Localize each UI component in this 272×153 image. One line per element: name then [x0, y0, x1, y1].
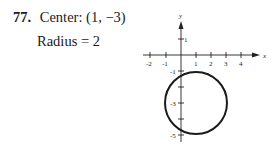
y-tick-label: -1 [170, 68, 176, 76]
y-axis-label: y [178, 12, 183, 20]
x-tick-label: -2 [146, 60, 152, 68]
y-tick-label: 1 [184, 36, 188, 44]
y-tick-label: -5 [170, 132, 176, 140]
x-axis-label: x [262, 52, 267, 60]
x-tick-label: 4 [239, 60, 243, 68]
x-tick-label: 2 [209, 60, 213, 68]
x-tick-label: 3 [224, 60, 228, 68]
x-axis-arrow-icon [252, 53, 260, 58]
circle-graph: x y -2 -1 1 2 3 4 1 -1 -3 -5 [0, 0, 272, 153]
x-tick-label: -1 [162, 60, 168, 68]
x-tick-label: 1 [194, 60, 198, 68]
y-tick-label: -3 [170, 100, 176, 108]
y-axis-arrow-icon [179, 21, 184, 29]
